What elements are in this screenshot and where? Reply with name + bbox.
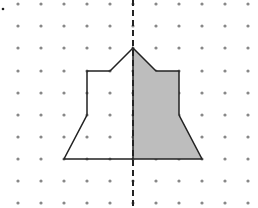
grid-dot (85, 46, 88, 49)
grid-dot (246, 69, 249, 72)
grid-dot (39, 135, 42, 138)
grid-dot (85, 179, 88, 182)
grid-dot (39, 2, 42, 5)
grid-dot (177, 46, 180, 49)
grid-dot (177, 2, 180, 5)
grid-dot (16, 46, 19, 49)
grid-dot (246, 201, 249, 204)
grid-dot (39, 201, 42, 204)
grid-dot (16, 201, 19, 204)
grid-dot (39, 91, 42, 94)
grid-dot (39, 113, 42, 116)
grid-dot (62, 24, 65, 27)
grid-dot (177, 24, 180, 27)
grid-dot (223, 91, 226, 94)
grid-dot (200, 24, 203, 27)
grid-dot (16, 2, 19, 5)
grid-dot (200, 201, 203, 204)
grid-dot (154, 24, 157, 27)
grid-dot (108, 91, 111, 94)
grid-dot (223, 157, 226, 160)
grid-dot (62, 135, 65, 138)
grid-dot (246, 24, 249, 27)
grid-dot (62, 69, 65, 72)
grid-dot (223, 113, 226, 116)
grid-dot (223, 69, 226, 72)
grid-dot (62, 113, 65, 116)
grid-dot (200, 46, 203, 49)
grid-dot (16, 179, 19, 182)
grid-dot (16, 135, 19, 138)
grid-dot (85, 201, 88, 204)
grid-dot (62, 2, 65, 5)
grid-dot (62, 91, 65, 94)
grid-dot (108, 135, 111, 138)
grid-dot (62, 201, 65, 204)
grid-dot (39, 157, 42, 160)
shaded-right-half (133, 48, 202, 159)
grid-dot (39, 69, 42, 72)
grid-dot (16, 91, 19, 94)
grid-dot (108, 2, 111, 5)
grid-dot (154, 179, 157, 182)
grid-dot (200, 2, 203, 5)
grid-dot (200, 179, 203, 182)
dot-grid-canvas (0, 0, 258, 208)
grid-dot (39, 179, 42, 182)
grid-dot (85, 135, 88, 138)
grid-dot (246, 179, 249, 182)
grid-dot (200, 135, 203, 138)
grid-dot (177, 179, 180, 182)
grid-dot (200, 113, 203, 116)
grid-dot (246, 2, 249, 5)
grid-dot (16, 157, 19, 160)
grid-dot (39, 46, 42, 49)
grid-dot (246, 91, 249, 94)
grid-dot (62, 46, 65, 49)
grid-dot (39, 24, 42, 27)
grid-dot (223, 135, 226, 138)
grid-dot (16, 113, 19, 116)
grid-dot (154, 201, 157, 204)
grid-dot (223, 2, 226, 5)
grid-dot (108, 24, 111, 27)
grid-dot (62, 179, 65, 182)
grid-dot (85, 24, 88, 27)
grid-dot (177, 201, 180, 204)
grid-dot (108, 46, 111, 49)
grid-dot (246, 157, 249, 160)
grid-dot (16, 69, 19, 72)
grid-dot (223, 179, 226, 182)
symmetry-diagram (0, 0, 258, 208)
grid-dot (223, 24, 226, 27)
grid-dot (108, 179, 111, 182)
grid-dot (16, 24, 19, 27)
grid-dot (85, 2, 88, 5)
grid-dot (200, 91, 203, 94)
unshaded-left-half-outline (64, 48, 133, 159)
grid-dot (223, 201, 226, 204)
grid-dot (246, 113, 249, 116)
grid-dot (108, 201, 111, 204)
grid-dot (154, 46, 157, 49)
grid-dot (223, 46, 226, 49)
grid-dot (200, 69, 203, 72)
grid-dot (246, 135, 249, 138)
grid-dot (154, 2, 157, 5)
corner-marker-dot (2, 8, 5, 11)
grid-dot (108, 113, 111, 116)
grid-dot (246, 46, 249, 49)
